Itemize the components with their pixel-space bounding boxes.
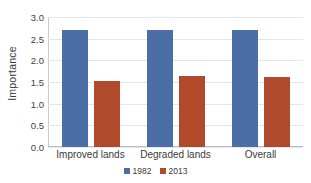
x-axis-category-labels: Improved landsDegraded landsOverall [48,149,303,164]
y-axis-tick-labels: 3.02.52.01.51.00.50.0 [18,17,44,147]
bar-1982-improved-lands [62,30,88,147]
y-axis-tick-label: 2.0 [20,55,44,66]
y-axis-tick-label: 1.5 [20,77,44,88]
bar-1982-degraded-lands [147,30,173,147]
y-axis-tick-label: 3.0 [20,12,44,23]
y-axis-tick-label: 0.0 [20,142,44,153]
legend-item-2013[interactable]: 2013 [160,167,188,176]
y-axis-tick-label: 0.5 [20,120,44,131]
x-axis-category-label: Improved lands [56,149,124,160]
grid-line [48,147,303,148]
y-axis-tick-label: 1.0 [20,98,44,109]
bar-2013-overall [264,77,290,147]
bar-1982-overall [232,30,258,147]
legend-label: 1982 [133,167,152,176]
legend-label: 2013 [169,167,188,176]
y-axis-tick-label: 2.5 [20,33,44,44]
x-axis-category-label: Degraded lands [140,149,211,160]
bar-chart: Importance 3.02.52.01.51.00.50.0 Improve… [0,0,311,183]
bar-2013-improved-lands [94,81,120,147]
grid-line [48,17,303,18]
chart-legend: 19822013 [0,167,311,176]
legend-swatch-icon [160,168,166,174]
legend-item-1982[interactable]: 1982 [124,167,152,176]
bar-2013-degraded-lands [179,76,205,148]
legend-swatch-icon [124,168,130,174]
plot-area [48,17,303,147]
x-axis-category-label: Overall [245,149,277,160]
